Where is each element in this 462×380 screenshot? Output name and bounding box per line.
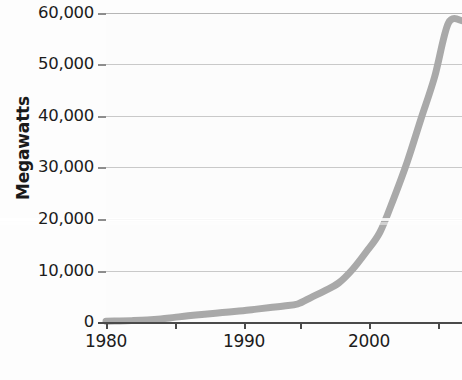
xtick-1980	[106, 322, 108, 329]
xtick-2000	[369, 322, 371, 329]
chart-container: 60,000 50,000 40,000 30,000 20,000 10,00…	[0, 0, 462, 380]
ytick-label-50000: 50,000	[2, 56, 94, 72]
ytick-0	[98, 322, 106, 324]
ytick-label-60000: 60,000	[2, 5, 94, 21]
xtick-2005	[438, 322, 440, 329]
xtick-label-2000: 2000	[329, 331, 409, 351]
y-axis-title: Megawatts	[13, 78, 33, 218]
ytick-label-10000: 10,000	[2, 263, 94, 279]
ytick-10000	[98, 271, 106, 273]
x-axis-line	[106, 322, 462, 324]
series-line-wind-capacity	[106, 18, 462, 321]
ytick-30000	[98, 167, 106, 169]
xtick-1990	[244, 322, 246, 329]
ytick-label-0: 0	[2, 314, 94, 330]
ytick-40000	[98, 116, 106, 118]
ytick-50000	[98, 64, 106, 66]
xtick-1985	[175, 322, 177, 329]
ytick-20000	[98, 219, 106, 221]
xtick-label-1990: 1990	[204, 331, 284, 351]
xtick-label-1980: 1980	[66, 331, 146, 351]
xtick-1995	[300, 322, 302, 329]
ytick-60000	[98, 13, 106, 15]
